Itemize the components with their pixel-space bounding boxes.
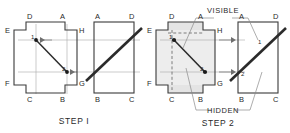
label-step2-side-A: A	[239, 12, 244, 21]
visible-leader-right	[232, 18, 258, 40]
label-step1-front-F: F	[5, 79, 10, 88]
step-1-side-view-rect	[94, 22, 134, 93]
label-step2-side-point-1: 1	[258, 39, 262, 45]
step-1-point-2-dot	[65, 70, 69, 74]
label-step1-side-B: B	[95, 95, 100, 104]
visible-annotation-label: VISIBLE	[207, 6, 239, 15]
label-step1-front-A: A	[60, 12, 65, 21]
step-2-side-view-rect	[238, 22, 278, 93]
technical-drawing-svg: D A E H F G C B A D B C 1 2 STEP I	[0, 0, 290, 133]
label-step2-front-E: E	[147, 26, 152, 35]
label-step2-front-B: B	[198, 95, 203, 104]
label-step2-front-G: G	[217, 79, 223, 88]
step-1-group: D A E H F G C B A D B C 1 2 STEP I	[5, 12, 142, 126]
step-2-point-2-dot	[203, 70, 207, 74]
label-step2-side-D: D	[273, 12, 279, 21]
hidden-annotation-label: HIDDEN	[207, 106, 239, 115]
label-step2-side-B: B	[239, 95, 244, 104]
label-step1-front-C: C	[27, 95, 33, 104]
step-2-group: VISIBLE HIDDEN D A E H F G C B A D B C 1…	[147, 6, 286, 128]
label-step2-front-D: D	[169, 12, 175, 21]
label-step2-front-A: A	[198, 12, 203, 21]
label-step2-side-C: C	[273, 95, 279, 104]
step-2-shaded-overlay-wide	[156, 30, 215, 85]
label-step1-front-B: B	[60, 95, 65, 104]
step-1-caption: STEP I	[59, 116, 89, 126]
step-1-front-view-outline	[14, 22, 77, 93]
step-2-caption: STEP 2	[202, 118, 235, 128]
step-1-labels: D A E H F G C B A D B C 1 2	[5, 12, 135, 104]
step-2-arrows	[219, 40, 231, 72]
step-1-arrows	[40, 40, 77, 72]
label-step1-side-C: C	[129, 95, 135, 104]
label-step1-front-H: H	[79, 26, 84, 35]
label-step1-front-D: D	[27, 12, 33, 21]
label-step2-front-F: F	[147, 79, 152, 88]
label-step1-front-E: E	[5, 26, 10, 35]
step-2-point-1-dot	[172, 38, 176, 42]
drawing-canvas: D A E H F G C B A D B C 1 2 STEP I	[0, 0, 290, 133]
label-step1-side-A: A	[95, 12, 100, 21]
label-step2-front-C: C	[169, 95, 175, 104]
label-step1-front-G: G	[79, 79, 85, 88]
step-1-point-1-dot	[34, 38, 38, 42]
label-step1-side-D: D	[129, 12, 135, 21]
label-step2-front-H: H	[217, 26, 222, 35]
